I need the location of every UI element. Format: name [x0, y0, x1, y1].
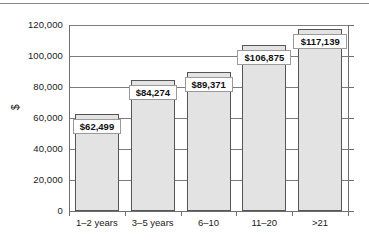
- bar-value-label-6-10: $89,371: [185, 77, 233, 92]
- y-tick-label-120000: 120,000: [28, 19, 63, 30]
- bar-value-label-11-20: $106,875: [237, 50, 291, 65]
- x-tick-label-3-5-years: 3–5 years: [125, 217, 181, 228]
- x-tick-label-over-21: >21: [292, 217, 348, 228]
- bar-6-10[interactable]: [187, 72, 231, 211]
- bar-value-label-over-21: $117,139: [293, 34, 347, 49]
- bar-value-label-3-5-years: $84,274: [129, 85, 177, 100]
- bar-chart: $ 120,000 100,000 80,000 60,000 40,000 2…: [0, 0, 369, 242]
- y-tick-label-20000: 20,000: [33, 174, 63, 185]
- x-axis: [69, 211, 349, 212]
- y-tick-mark-right-80000: [349, 87, 354, 88]
- x-tick-mark-5: [348, 212, 349, 216]
- y-tick-mark-right-40000: [349, 149, 354, 150]
- y-tick-mark-right-60000: [349, 118, 354, 119]
- bar-over-21[interactable]: [298, 29, 342, 211]
- x-tick-mark-4: [292, 212, 293, 216]
- y-axis-left: [69, 25, 70, 212]
- x-tick-mark-2: [181, 212, 182, 216]
- x-tick-label-1-2-years: 1–2 years: [69, 217, 125, 228]
- y-tick-mark-right-0: [349, 211, 354, 212]
- x-tick-mark-3: [236, 212, 237, 216]
- y-tick-mark-right-120000: [349, 25, 354, 26]
- x-tick-label-6-10: 6–10: [181, 217, 237, 228]
- x-tick-label-11-20: 11–20: [236, 217, 292, 228]
- y-tick-label-40000: 40,000: [33, 143, 63, 154]
- y-tick-label-100000: 100,000: [28, 50, 63, 61]
- x-tick-mark-1: [125, 212, 126, 216]
- y-tick-label-0: 0: [58, 205, 63, 216]
- y-tick-label-80000: 80,000: [33, 81, 63, 92]
- plot-area: $62,499 $84,274 $89,371 $106,875 $117,13…: [69, 25, 348, 211]
- bar-value-label-1-2-years: $62,499: [73, 119, 121, 134]
- y-axis-title: $: [10, 104, 21, 110]
- y-tick-label-60000: 60,000: [33, 112, 63, 123]
- y-tick-mark-right-20000: [349, 180, 354, 181]
- y-axis-right: [348, 25, 349, 212]
- x-tick-mark-0: [69, 212, 70, 216]
- gridline-120000: [69, 25, 348, 26]
- y-tick-mark-right-100000: [349, 56, 354, 57]
- bar-11-20[interactable]: [242, 45, 286, 211]
